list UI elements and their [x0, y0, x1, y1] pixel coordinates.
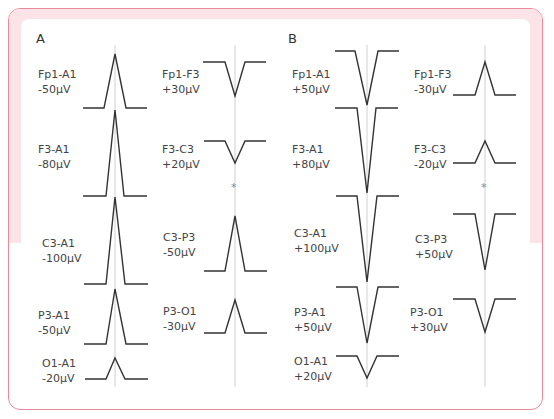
trace-a-c3-a1 [84, 197, 148, 284]
lead-label: P3-A1-50μV [38, 308, 71, 338]
trace-b-f3-a1 [335, 108, 398, 193]
trace-b-c3-p3 [453, 214, 516, 270]
trace-b-c3-a1 [336, 196, 399, 282]
panel-label-a: A [36, 31, 45, 46]
trace-a-o1-a1 [85, 358, 148, 379]
trace-a-p3-o1 [204, 300, 267, 333]
panel-label-b: B [288, 31, 297, 46]
trace-b-f3-c3 [453, 141, 516, 163]
trace-b-p3-o1 [453, 299, 516, 332]
waveform-plot: * * [0, 0, 554, 419]
lead-label: Fp1-A1-50μV [38, 67, 77, 97]
trace-b-fp1-f3 [453, 62, 516, 95]
lead-label: C3-P3-50μV [163, 230, 196, 260]
lead-label: C3-A1-100μV [42, 236, 82, 266]
lead-label: C3-P3+50μV [415, 232, 453, 262]
lead-label: F3-C3-20μV [414, 142, 447, 172]
lead-label: O1-A1+20μV [294, 354, 332, 384]
lead-label: F3-C3+20μV [162, 142, 200, 172]
marker-asterisk-a: * [231, 181, 237, 194]
trace-a-c3-p3 [204, 216, 267, 271]
trace-b-p3-a1 [336, 287, 399, 343]
trace-b-o1-a1 [336, 356, 399, 378]
trace-a-fp1-f3 [203, 62, 266, 96]
lead-label: P3-O1+30μV [410, 305, 448, 335]
lead-label: Fp1-A1+50μV [292, 67, 331, 97]
lead-label: P3-O1-30μV [163, 304, 197, 334]
lead-label: C3-A1+100μV [294, 226, 339, 256]
lead-label: P3-A1+50μV [294, 305, 332, 335]
trace-a-p3-a1 [84, 289, 148, 344]
lead-label: Fp1-F3+30μV [162, 67, 200, 97]
marker-asterisk-b: * [481, 181, 487, 194]
lead-label: F3-A1-80μV [38, 142, 71, 172]
lead-label: O1-A1-20μV [42, 356, 76, 386]
lead-label: F3-A1+80μV [292, 142, 330, 172]
lead-label: Fp1-F3-30μV [414, 67, 452, 97]
